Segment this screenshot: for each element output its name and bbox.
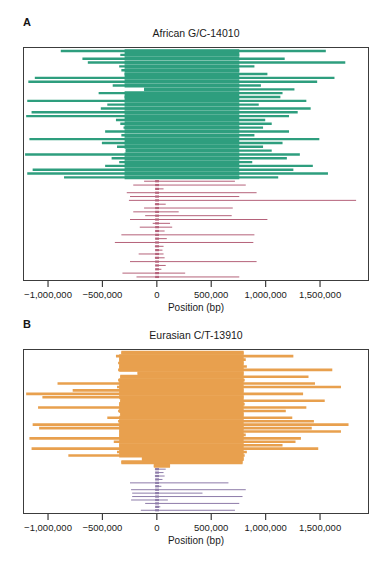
x-tick-label: 1,500,000 bbox=[299, 522, 341, 533]
x-tick-label: 0 bbox=[154, 289, 159, 300]
panel-a-haplotype-lines bbox=[24, 48, 368, 280]
x-tick-label: 500,000 bbox=[194, 289, 228, 300]
panel-a: A African G/C-14010 −1,000,000−500,00005… bbox=[0, 0, 389, 310]
panel-b-tick-marks bbox=[23, 514, 369, 522]
panel-b-haplotype-lines bbox=[24, 350, 368, 513]
x-tick-label: 500,000 bbox=[194, 522, 228, 533]
x-tick-label: −500,000 bbox=[82, 289, 122, 300]
panel-a-plot-area bbox=[23, 47, 369, 281]
panel-b-plot-area bbox=[23, 349, 369, 514]
x-tick-label: −1,000,000 bbox=[24, 522, 72, 533]
x-tick-label: −1,000,000 bbox=[24, 289, 72, 300]
panel-b-title: Eurasian C/T-13910 bbox=[23, 329, 369, 341]
x-tick-label: −500,000 bbox=[82, 522, 122, 533]
x-tick-label: 1,500,000 bbox=[299, 289, 341, 300]
panel-a-title: African G/C-14010 bbox=[23, 27, 369, 39]
panel-a-axis-title: Position (bp) bbox=[23, 302, 369, 313]
panel-b: B Eurasian C/T-13910 −1,000,000−500,0000… bbox=[0, 315, 389, 565]
x-tick-label: 0 bbox=[154, 522, 159, 533]
panel-b-axis-title: Position (bp) bbox=[23, 535, 369, 546]
x-tick-label: 1,000,000 bbox=[244, 522, 286, 533]
figure-root: A African G/C-14010 −1,000,000−500,00005… bbox=[0, 0, 389, 565]
x-tick-label: 1,000,000 bbox=[244, 289, 286, 300]
panel-a-tick-marks bbox=[23, 281, 369, 289]
